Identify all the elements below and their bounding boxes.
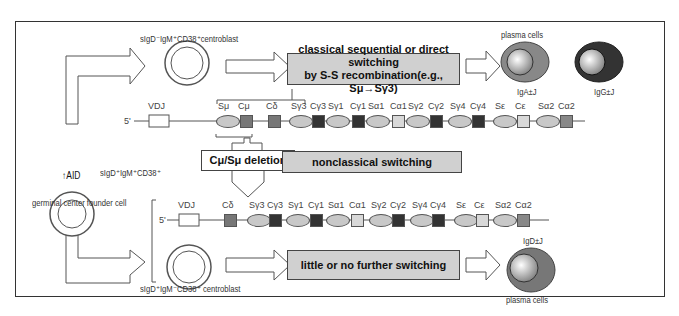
aid-label: ↑AID (62, 170, 80, 181)
gene-label: Sα2 (495, 200, 511, 210)
constant-region (392, 214, 405, 227)
constant-region (269, 214, 282, 227)
igg-label: IgG±J (594, 87, 614, 97)
switch-region (454, 214, 478, 227)
switch-region (493, 214, 517, 227)
gene-label: Cα2 (515, 200, 532, 210)
switch-region (326, 214, 350, 227)
gene-label: VDJ (178, 200, 195, 210)
constant-region (310, 214, 323, 227)
gene-label: Cα1 (390, 101, 407, 111)
five-prime-label: 5' (124, 116, 131, 126)
igd-label: IgD±J (523, 236, 543, 246)
gene-label: Cγ4 (470, 101, 486, 111)
switch-region (326, 115, 350, 128)
constant-region (517, 115, 530, 128)
switch-region (493, 115, 517, 128)
five-prime-label: 5' (159, 215, 166, 225)
constant-region (517, 214, 530, 227)
gene-label: Cγ2 (390, 200, 406, 210)
constant-region (352, 115, 365, 128)
switch-region (448, 115, 472, 128)
gene-label: Sα2 (538, 101, 554, 111)
classical-line2: by S-S recombination(e.g., Sμ→Sγ3) (288, 69, 459, 95)
gene-label: Cα1 (349, 200, 366, 210)
gene-label: Sγ2 (371, 200, 387, 210)
constant-region (312, 115, 325, 128)
gene-label: Sγ3 (249, 200, 265, 210)
switch-region (410, 214, 434, 227)
plasma-cells-bottom-label: plasma cells (506, 295, 548, 305)
gene-label: Cε (515, 101, 526, 111)
gene-label: Cγ1 (308, 200, 324, 210)
nonclassical-label: nonclassical switching (312, 156, 432, 169)
founder-marker-label: sIgD⁺IgM⁺CD38⁺ (100, 168, 161, 178)
gene-label: Cμ (238, 101, 250, 111)
gene-label: Cδ (222, 200, 234, 210)
gene-label: Cε (474, 200, 485, 210)
classical-line1: classical sequential or direct switching (288, 43, 459, 69)
constant-region (268, 115, 281, 128)
constant-region (476, 214, 489, 227)
deletion-box: Cμ/Sμ deletion (201, 150, 295, 171)
gene-label: Sγ1 (328, 101, 344, 111)
bottom-centroblast-label: sIgD⁺IgM⁻CD38⁺ centroblast (140, 284, 240, 294)
gene-label: Sα1 (328, 200, 344, 210)
plasma-cells-top-label: plasma cells (501, 30, 543, 40)
gene-label: VDJ (148, 101, 165, 111)
switch-region (406, 115, 430, 128)
switch-region (369, 214, 393, 227)
classical-switching-box: classical sequential or direct switching… (287, 53, 460, 85)
deletion-label: Cμ/Sμ deletion (209, 154, 286, 167)
switch-region (247, 214, 271, 227)
constant-region (560, 115, 573, 128)
switch-region (286, 214, 310, 227)
little-label: little or no further switching (301, 259, 446, 272)
gene-label: Cγ3 (310, 101, 326, 111)
gene-label: Sμ (218, 101, 229, 111)
constant-region (351, 214, 364, 227)
constant-region (224, 214, 237, 227)
gene-label: Cδ (266, 101, 278, 111)
gene-label: Cγ2 (428, 101, 444, 111)
gene-label: Sγ2 (408, 101, 424, 111)
constant-region (392, 115, 405, 128)
gene-label: Sε (495, 101, 505, 111)
gene-label: Cγ1 (350, 101, 366, 111)
gene-label: Sγ1 (288, 200, 304, 210)
switch-region (289, 115, 313, 128)
switch-region (366, 115, 390, 128)
gene-label: Cγ4 (430, 200, 446, 210)
gene-label: Sγ4 (450, 101, 466, 111)
constant-region (430, 115, 443, 128)
founder-cell-label: germinal center founder cell (32, 198, 126, 208)
gene-label: Sε (456, 200, 466, 210)
gene-label: Sα1 (368, 101, 384, 111)
constant-region (472, 115, 485, 128)
little-switching-box: little or no further switching (287, 250, 460, 280)
constant-region (240, 115, 253, 128)
nonclassical-switching-box: nonclassical switching (282, 151, 462, 173)
gene-label: Cα2 (558, 101, 575, 111)
iga-label: IgA±J (517, 87, 537, 97)
top-centroblast-label: sIgD⁻IgM⁺CD38⁺centroblast (140, 34, 238, 44)
gene-label: Cγ3 (267, 200, 283, 210)
switch-region (536, 115, 560, 128)
constant-region (432, 214, 445, 227)
gene-label: Sγ3 (291, 101, 307, 111)
gene-label: Sγ4 (412, 200, 428, 210)
switch-region (216, 115, 240, 128)
